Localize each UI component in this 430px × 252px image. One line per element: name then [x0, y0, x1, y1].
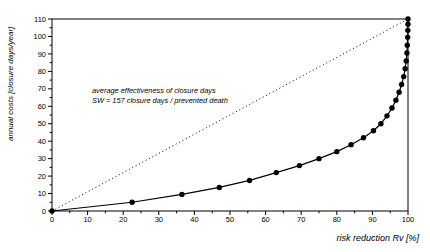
data-point-marker: [405, 16, 410, 21]
data-point-marker: [405, 28, 410, 33]
data-point-marker: [393, 97, 398, 102]
y-axis: 0102030405060708090100110: [33, 15, 52, 216]
data-point-marker: [389, 105, 394, 110]
data-point-marker: [396, 90, 401, 95]
data-point-marker: [217, 185, 222, 190]
data-point-marker: [404, 50, 409, 55]
data-point-marker: [401, 74, 406, 79]
data-point-marker: [399, 82, 404, 87]
chart: 0102030405060708090100110 01020304050607…: [0, 0, 430, 252]
data-point-marker: [405, 22, 410, 27]
data-point-marker: [129, 200, 134, 205]
y-tick-label: 70: [38, 84, 46, 93]
x-tick-label: 10: [83, 215, 91, 224]
x-axis: 0102030405060708090100: [50, 211, 414, 224]
chart-canvas: 0102030405060708090100110 01020304050607…: [0, 0, 430, 252]
y-tick-label: 30: [38, 154, 46, 163]
annotation-line2: SW = 157 closure days / prevented death: [92, 96, 228, 105]
x-tick-label: 50: [226, 215, 234, 224]
data-point-marker: [378, 121, 383, 126]
y-tick-label: 50: [38, 119, 46, 128]
data-point-marker: [371, 128, 376, 133]
y-tick-label: 80: [38, 67, 46, 76]
y-tick-label: 40: [38, 137, 46, 146]
data-point-marker: [247, 178, 252, 183]
data-point-marker: [405, 42, 410, 47]
x-tick-label: 30: [155, 215, 163, 224]
y-tick-label: 60: [38, 102, 46, 111]
x-tick-label: 80: [333, 215, 341, 224]
y-tick-label: 110: [34, 15, 46, 24]
y-tick-label: 90: [38, 50, 46, 59]
x-tick-label: 70: [297, 215, 305, 224]
y-tick-label: 10: [38, 189, 46, 198]
data-point-marker: [49, 208, 54, 213]
data-point-marker: [402, 66, 407, 71]
x-tick-label: 100: [402, 215, 415, 224]
average-effectiveness-line: [52, 19, 408, 211]
x-tick-label: 90: [368, 215, 376, 224]
average-line: [52, 19, 408, 211]
data-point-marker: [297, 163, 302, 168]
data-point-marker: [274, 170, 279, 175]
y-tick-label: 0: [42, 207, 46, 216]
x-tick-label: 40: [190, 215, 198, 224]
x-tick-label: 20: [119, 215, 127, 224]
y-axis-label: annual costs [closure days/year]: [6, 26, 15, 141]
x-tick-label: 0: [50, 215, 54, 224]
data-point-marker: [405, 35, 410, 40]
x-axis-label: risk reduction Rv [%]: [336, 233, 419, 243]
data-point-marker: [334, 149, 339, 154]
y-tick-label: 20: [38, 172, 46, 181]
data-point-marker: [179, 192, 184, 197]
data-point-marker: [384, 113, 389, 118]
annotation-line1: average effectiveness of closure days: [92, 86, 216, 95]
data-point-marker: [316, 156, 321, 161]
data-point-marker: [348, 142, 353, 147]
x-tick-label: 60: [261, 215, 269, 224]
data-point-marker: [404, 58, 409, 63]
y-tick-label: 100: [33, 32, 46, 41]
data-point-marker: [361, 135, 366, 140]
